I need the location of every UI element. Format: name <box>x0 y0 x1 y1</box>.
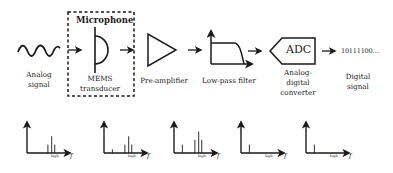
spectrum-plot-2 <box>104 123 146 153</box>
label-line: transducer <box>80 84 120 94</box>
spectrum-high-marker: high <box>51 154 59 158</box>
label-line: converter <box>278 88 318 98</box>
spectrum-axis-label: f <box>70 152 72 160</box>
spectrum-high-marker: high <box>330 154 338 158</box>
microphone-transducer-icon <box>95 27 108 73</box>
low-pass-filter-label: Low-pass filter <box>196 76 262 86</box>
adc-label: Analog- digital converter <box>278 68 318 98</box>
label-line: MEMS <box>80 74 120 84</box>
amplifier-triangle-icon <box>148 34 176 66</box>
spectrum-high-marker: high <box>128 154 136 158</box>
label-line: signal <box>340 82 376 92</box>
spectrum-plot-5 <box>306 123 348 153</box>
lowpass-filter-icon <box>211 32 251 64</box>
spectrum-plot-4 <box>241 123 283 153</box>
label-line: Digital <box>340 72 376 82</box>
spectrum-plot-3 <box>174 123 216 153</box>
label-line: Analog <box>22 70 56 80</box>
adc-block-text: ADC <box>286 43 311 56</box>
sine-wave-icon <box>18 46 60 57</box>
digital-signal-label: Digital signal <box>340 72 376 92</box>
digital-output-bits: 10111100.... <box>341 47 380 55</box>
spectrum-axis-label: f <box>349 152 351 160</box>
microphone-group-title: Microphone <box>76 15 133 25</box>
pre-amplifier-label: Pre-amplifier <box>136 76 192 86</box>
spectra-row <box>27 123 348 153</box>
diagram-canvas <box>0 0 393 173</box>
spectrum-high-marker: high <box>265 154 273 158</box>
label-line: digital <box>278 78 318 88</box>
spectrum-axis-label: f <box>217 152 219 160</box>
label-line: signal <box>22 80 56 90</box>
spectrum-axis-label: f <box>284 152 286 160</box>
spectrum-plot-1 <box>27 123 69 153</box>
mems-transducer-label: MEMS transducer <box>80 74 120 94</box>
spectrum-axis-label: f <box>147 152 149 160</box>
analog-signal-label: Analog signal <box>22 70 56 90</box>
label-line: Analog- <box>278 68 318 78</box>
spectrum-high-marker: high <box>198 154 206 158</box>
